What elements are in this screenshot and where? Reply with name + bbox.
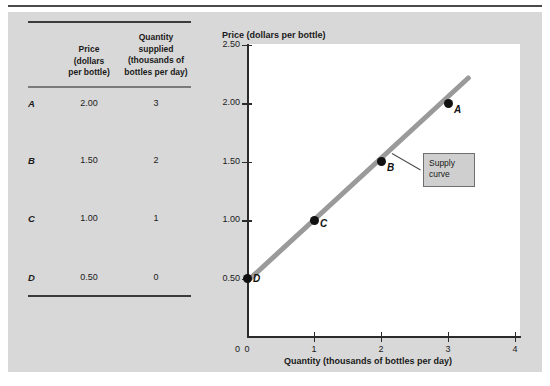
y-tick-1.00 bbox=[242, 220, 252, 221]
table-header-price: Price (dollars per bottle) bbox=[60, 44, 118, 79]
x-tick-label-3: 3 bbox=[438, 344, 458, 354]
table-header-quantity-line3: (thousands of bbox=[120, 55, 192, 67]
x-tick-1 bbox=[314, 332, 315, 342]
data-point-a[interactable] bbox=[444, 99, 453, 108]
table-cell-price: 2.00 bbox=[60, 98, 118, 108]
table-header-quantity-line4: bottles per day) bbox=[120, 67, 192, 79]
figure-top-rule bbox=[8, 5, 542, 7]
y-axis-line bbox=[247, 44, 249, 338]
table-header-quantity-line2: supplied bbox=[120, 44, 192, 56]
table-header-quantity-line1: Quantity bbox=[120, 32, 192, 44]
data-point-d[interactable] bbox=[243, 274, 252, 283]
y-tick-2.50 bbox=[242, 45, 252, 46]
y-tick-label-2.00: 2.00 bbox=[210, 97, 240, 107]
x-tick-label-1: 1 bbox=[304, 344, 324, 354]
y-tick-label-2.50: 2.50 bbox=[210, 39, 240, 49]
x-axis-line bbox=[247, 336, 521, 338]
y-tick-1.50 bbox=[242, 162, 252, 163]
callout-line2: curve bbox=[429, 169, 474, 180]
table-cell-label: C bbox=[28, 213, 44, 224]
table-rule-header bbox=[28, 86, 191, 88]
table-cell-label: B bbox=[28, 155, 44, 166]
x-tick-4 bbox=[515, 332, 516, 342]
table-row: B 1.50 2 bbox=[28, 155, 191, 169]
table-header-price-line3: per bottle) bbox=[60, 67, 118, 79]
x-tick-label-0: 0 bbox=[237, 344, 257, 354]
y-tick-label-0: 0 bbox=[210, 344, 240, 354]
table-cell-quantity: 1 bbox=[120, 213, 192, 223]
table-cell-price: 1.50 bbox=[60, 155, 118, 165]
table-rule-top bbox=[28, 21, 191, 23]
data-point-label-b: B bbox=[387, 162, 394, 173]
y-tick-label-1.00: 1.00 bbox=[210, 214, 240, 224]
table-cell-quantity: 3 bbox=[120, 98, 192, 108]
table-cell-price: 1.00 bbox=[60, 213, 118, 223]
table-header-price-line2: (dollars bbox=[60, 56, 118, 68]
data-point-b[interactable] bbox=[377, 157, 386, 166]
y-tick-label-1.50: 1.50 bbox=[210, 156, 240, 166]
data-point-label-d: D bbox=[253, 273, 260, 284]
callout-line1: Supply bbox=[429, 158, 474, 169]
table-cell-price: 0.50 bbox=[60, 272, 118, 282]
data-point-c[interactable] bbox=[310, 216, 319, 225]
y-tick-label-0.50: 0.50 bbox=[210, 273, 240, 283]
supply-curve-chart: Price (dollars per bottle) 2.50 2.00 1.5… bbox=[212, 12, 542, 372]
table-row: D 0.50 0 bbox=[28, 272, 191, 286]
table-row: A 2.00 3 bbox=[28, 98, 191, 112]
table-header: Price (dollars per bottle) Quantity supp… bbox=[28, 26, 191, 84]
x-tick-3 bbox=[448, 332, 449, 342]
y-tick-2.00 bbox=[242, 103, 252, 104]
plot-area bbox=[248, 44, 520, 336]
table-header-price-line1: Price bbox=[60, 44, 118, 56]
supply-schedule-and-curve-figure: Price (dollars per bottle) Quantity supp… bbox=[0, 0, 550, 386]
x-tick-2 bbox=[381, 332, 382, 342]
x-tick-label-4: 4 bbox=[505, 344, 525, 354]
table-cell-label: D bbox=[28, 272, 44, 283]
table-row: C 1.00 1 bbox=[28, 213, 191, 227]
table-cell-label: A bbox=[28, 98, 44, 109]
x-tick-label-2: 2 bbox=[371, 344, 391, 354]
table-header-quantity: Quantity supplied (thousands of bottles … bbox=[120, 32, 192, 78]
chart-x-axis-title: Quantity (thousands of bottles per day) bbox=[284, 356, 452, 366]
supply-curve-callout: Supply curve bbox=[423, 153, 475, 187]
data-point-label-c: C bbox=[320, 218, 327, 229]
table-cell-quantity: 2 bbox=[120, 155, 192, 165]
table-cell-quantity: 0 bbox=[120, 272, 192, 282]
data-point-label-a: A bbox=[454, 104, 461, 115]
table-rule-bottom bbox=[28, 295, 191, 297]
